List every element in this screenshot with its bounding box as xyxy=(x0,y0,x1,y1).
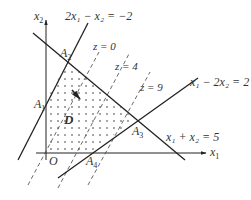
vertex-label-a3: A3 xyxy=(131,124,143,140)
constraint-label-c1: 2x₁ − x₂ = −2 xyxy=(65,9,132,23)
vertex-label-a1: A1 xyxy=(33,97,45,113)
objective-label-z0: z = 0 xyxy=(92,40,116,52)
region-label-d: D xyxy=(63,112,74,127)
vertex-label-a4: A4 xyxy=(85,154,97,170)
objective-label-z9: z = 9 xyxy=(139,81,163,93)
x2-axis-label: x2 xyxy=(33,9,43,25)
constraint-label-c3: x₁ + x₂ = 5 xyxy=(165,130,219,144)
objective-label-z4: z = 4 xyxy=(114,60,138,72)
origin-label: O xyxy=(49,154,58,168)
x1-axis-label: x1 xyxy=(209,145,219,161)
lp-diagram: x2 x1 O 2x₁ − x₂ = −2 x₁ − 2x₂ = 2 x₁ + … xyxy=(0,0,251,200)
constraint-label-c2: x₁ − 2x₂ = 2 xyxy=(189,75,249,89)
vertex-label-a2: A2 xyxy=(59,46,71,62)
